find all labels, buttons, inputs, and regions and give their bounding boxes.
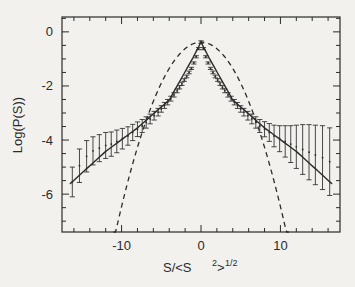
x-axis-title-bracket: > xyxy=(217,260,225,275)
y-tick-label: -6 xyxy=(41,187,53,202)
y-tick-label: -4 xyxy=(41,133,53,148)
x-axis-title-main: S/<S xyxy=(163,260,192,275)
x-axis-title-power: 1/2 xyxy=(225,258,238,268)
y-axis-title: Log(P(S)) xyxy=(10,97,25,153)
probability-distribution-plot: -100100-2-4-6 S/<S 2 > 1/2 Log(P(S)) xyxy=(0,0,355,287)
x-tick-label: 0 xyxy=(197,238,204,253)
figure-container: -100100-2-4-6 S/<S 2 > 1/2 Log(P(S)) xyxy=(0,0,355,287)
y-tick-label: -2 xyxy=(41,78,53,93)
plot-background xyxy=(0,0,355,287)
x-tick-label: -10 xyxy=(112,238,131,253)
x-tick-label: 10 xyxy=(273,238,287,253)
y-tick-label: 0 xyxy=(46,24,53,39)
